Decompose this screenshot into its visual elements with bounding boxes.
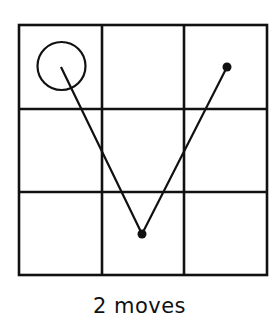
grid-diagram [0, 0, 279, 336]
move-path [61, 67, 227, 234]
move-point-2 [223, 63, 232, 72]
move-point-1 [138, 230, 147, 239]
start-circle-marker [38, 42, 86, 90]
moves-caption: 2 moves [0, 294, 279, 318]
